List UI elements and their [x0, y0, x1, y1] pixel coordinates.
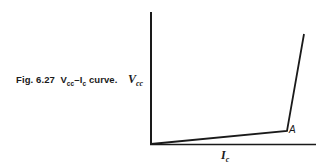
x-axis-label: Ic: [221, 148, 229, 164]
vcc-ic-curve: [151, 34, 304, 144]
y-axis-label: Vcc: [128, 72, 143, 88]
y-label-main: V: [128, 72, 136, 86]
point-a-label: A: [289, 124, 296, 135]
y-label-sub: cc: [136, 79, 143, 88]
x-label-sub: c: [226, 155, 230, 164]
vcc-ic-diagram: [0, 0, 328, 166]
